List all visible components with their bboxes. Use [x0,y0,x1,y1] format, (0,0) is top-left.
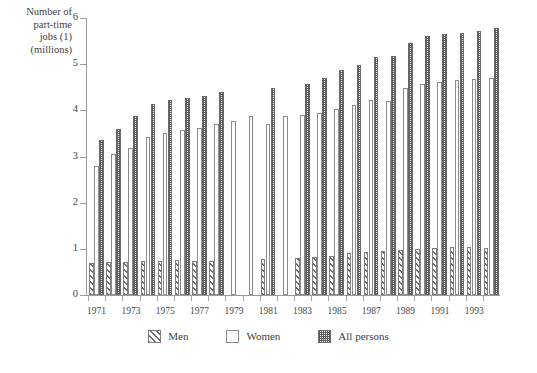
bar-all-persons-1988 [391,56,396,295]
legend-entry-men: Men [148,330,188,343]
y-tick [80,203,86,204]
bar-women-1987 [369,100,374,295]
bar-all-persons-1987 [374,57,379,295]
x-tick [174,296,175,301]
bar-all-persons-1978 [219,92,224,295]
y-tick-label: 4 [56,104,78,114]
x-tick [483,296,484,301]
x-tick [466,296,467,301]
x-tick [88,296,89,301]
bar-women-1979 [231,121,236,296]
bar-men-1993 [467,247,472,295]
x-tick-label: 1985 [320,306,354,316]
bar-women-1986 [352,105,357,295]
bar-men-1981 [261,259,266,295]
bar-all-persons-1972 [116,129,121,295]
bar-all-persons-1975 [168,100,173,295]
bar-men-1991 [432,248,437,295]
plot-area: 0123456 19711973197519771979198119831985… [88,18,500,295]
y-axis-line [86,18,87,295]
bar-men-1977 [192,261,197,295]
bar-all-persons-1973 [133,116,138,295]
y-tick [80,18,86,19]
x-tick [157,296,158,301]
y-tick-label: 0 [56,289,78,299]
x-tick-label: 1979 [217,306,251,316]
bar-all-persons-1990 [425,36,430,295]
bar-all-persons-1985 [339,70,344,295]
y-tick [80,110,86,111]
x-tick [414,296,415,301]
bar-men-1989 [398,250,403,295]
x-tick-label: 1973 [114,306,148,316]
bar-all-persons-1977 [202,96,207,295]
x-tick [243,296,244,301]
y-tick [80,249,86,250]
bar-men-1994 [484,248,489,295]
x-tick-label: 1983 [286,306,320,316]
bar-all-persons-1983 [305,84,310,295]
bar-women-1975 [163,133,168,295]
x-tick [105,296,106,301]
x-tick-label: 1981 [251,306,285,316]
bar-men-1971 [89,263,94,295]
bar-women-1993 [472,79,477,295]
bar-women-1978 [214,124,219,295]
bar-women-1973 [128,148,133,295]
x-tick-label: 1991 [423,306,457,316]
x-tick-label: 1989 [389,306,423,316]
bar-all-persons-1986 [357,65,362,295]
x-axis-line [86,295,500,296]
x-tick [380,296,381,301]
bar-all-persons-1989 [408,43,413,295]
legend-label: Women [246,330,280,343]
x-tick-label: 1977 [183,306,217,316]
legend-swatch-diagonal-hatch-icon [148,330,161,343]
y-tick [80,64,86,65]
bar-men-1974 [141,261,146,295]
bar-all-persons-1976 [185,98,190,295]
bar-men-1983 [295,258,300,295]
bar-women-1985 [334,109,339,295]
x-tick-label: 1975 [148,306,182,316]
y-tick-label: 1 [56,243,78,253]
bar-all-persons-1993 [477,31,482,295]
bar-men-1988 [381,251,386,295]
part-time-jobs-bar-chart: Number of part-time jobs (1) (millions) … [0,0,537,373]
bar-women-1976 [180,130,185,295]
x-tick [191,296,192,301]
x-tick [294,296,295,301]
bar-women-1977 [197,128,202,295]
bar-men-1992 [450,247,455,295]
bar-men-1978 [209,261,214,295]
bar-women-1990 [420,84,425,295]
chart-legend: MenWomenAll persons [0,330,537,343]
x-tick [328,296,329,301]
bar-women-1991 [437,82,442,295]
legend-entry-women: Women [226,330,280,343]
x-tick-label: 1971 [80,306,114,316]
y-tick-label: 5 [56,58,78,68]
bar-all-persons-1991 [442,34,447,295]
legend-swatch-checkerboard-icon [318,330,331,343]
bar-men-1972 [106,262,111,295]
x-tick [122,296,123,301]
bar-all-persons-1992 [460,33,465,295]
x-tick [140,296,141,301]
x-tick [363,296,364,301]
bar-women-1983 [300,115,305,295]
y-tick [80,295,86,296]
x-tick [397,296,398,301]
bar-all-persons-1981 [271,88,276,295]
bar-men-1987 [364,252,369,295]
x-tick-label: 1993 [457,306,491,316]
legend-label: Men [168,330,188,343]
bar-women-1982 [283,116,288,295]
bar-women-1994 [489,78,494,295]
bar-women-1984 [317,113,322,295]
bar-all-persons-1974 [151,104,156,295]
bar-men-1984 [312,257,317,295]
bar-women-1980 [249,116,254,295]
legend-swatch-open-icon [226,330,239,343]
x-tick [225,296,226,301]
